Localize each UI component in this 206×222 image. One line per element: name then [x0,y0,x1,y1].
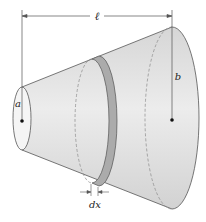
small-center-dot [20,119,24,123]
large-center-dot [170,118,174,122]
large-radius-label: b [175,71,181,82]
slice-thickness-label: dx [89,199,101,210]
truncated-cone-figure: ℓ a b dx [0,0,206,222]
length-label: ℓ [95,10,100,23]
cone-diagram: ℓ a b dx [0,0,206,222]
slice-thickness-dimension [80,184,109,196]
small-radius-label: a [15,98,21,109]
